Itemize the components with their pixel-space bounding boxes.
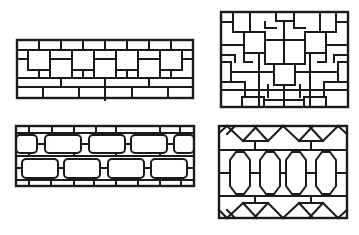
panel-4-octagon-lattice <box>219 126 347 218</box>
panel-2-square-lattice <box>221 12 348 107</box>
panel-1-square-fret-band <box>17 40 193 100</box>
lattice-figure <box>0 0 359 235</box>
panel-3-rounded-brick-lattice <box>16 126 194 186</box>
